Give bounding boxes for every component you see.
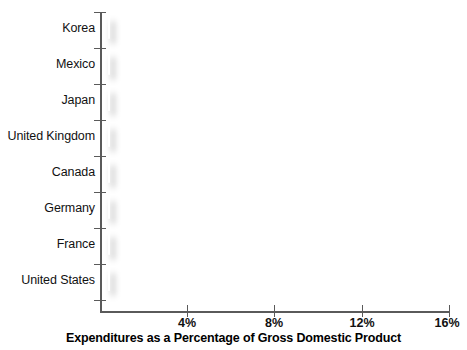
- x-axis-title: Expenditures as a Percentage of Gross Do…: [0, 331, 467, 345]
- category-label-france: France: [57, 237, 95, 251]
- category-label-korea: Korea: [62, 21, 95, 35]
- bar-row-canada: [108, 160, 302, 183]
- x-axis-label-4: 4%: [178, 316, 196, 330]
- x-axis-label-8: 8%: [265, 316, 283, 330]
- bar-row-japan: [108, 88, 261, 111]
- bar-france: [108, 232, 110, 255]
- category-label-united-states: United States: [21, 273, 95, 287]
- bar-chart: Korea Mexico Japan United Kingdom Canada…: [0, 0, 467, 350]
- category-label-canada: Canada: [52, 165, 95, 179]
- bar-germany: [108, 196, 110, 219]
- bar-row-united-kingdom: [108, 124, 270, 147]
- bar-korea: [108, 16, 110, 39]
- bar-mexico: [108, 52, 110, 75]
- category-label-germany: Germany: [44, 201, 95, 215]
- category-label-united-kingdom: United Kingdom: [7, 129, 95, 143]
- bar-japan: [108, 88, 110, 111]
- bar-united-states: [108, 268, 110, 291]
- bar-row-france: [108, 232, 340, 255]
- bar-canada: [108, 160, 110, 183]
- x-axis-label-12: 12%: [349, 316, 374, 330]
- x-axis-label-16: 16%: [434, 316, 459, 330]
- category-label-japan: Japan: [61, 93, 95, 107]
- bar-row-united-states: [108, 268, 436, 291]
- y-axis-line: [100, 12, 102, 312]
- category-label-mexico: Mexico: [56, 57, 95, 71]
- bar-row-germany: [108, 196, 331, 219]
- bar-row-mexico: [108, 52, 228, 75]
- bar-row-korea: [108, 16, 219, 39]
- bar-united-kingdom: [108, 124, 110, 147]
